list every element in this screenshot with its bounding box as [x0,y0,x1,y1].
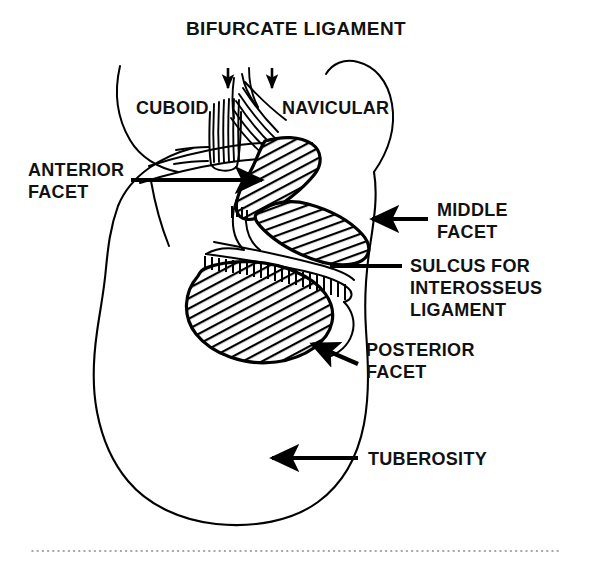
calcaneus-diagram-canvas: BIFURCATE LIGAMENT CUBOID NAVICULAR ANTE… [0,0,593,566]
posterior-facet-label-line1: POSTERIOR [366,340,475,360]
bone-label-navicular: NAVICULAR [282,98,389,118]
posterior-facet-label-line2: FACET [366,362,427,382]
middle-facet-label-line2: FACET [437,222,498,242]
tuberosity-label: TUBEROSITY [368,449,487,469]
anatomical-figure: BIFURCATE LIGAMENT CUBOID NAVICULAR ANTE… [0,0,593,566]
figure-title: BIFURCATE LIGAMENT [186,18,406,39]
sulcus-label-line1: SULCUS FOR [410,256,530,276]
anterior-facet-label-line1: ANTERIOR [28,160,124,180]
sulcus-label-line2: INTEROSSEUS [410,278,542,298]
bone-label-cuboid: CUBOID [136,98,209,118]
anterior-facet-label-line2: FACET [28,182,89,202]
middle-facet-label-line1: MIDDLE [437,200,508,220]
sulcus-label-line3: LIGAMENT [410,300,506,320]
